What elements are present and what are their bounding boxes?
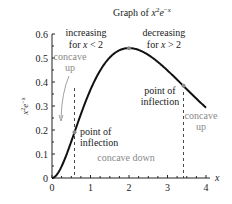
- annotations: increasing for x < 2 decreasing for x > …: [65, 27, 185, 148]
- y-tick-labels: 0.6 0.5 0.4 0.3 0.2 0.1 0: [36, 29, 49, 184]
- x-axis: [52, 175, 210, 178]
- decreasing-condition: for x > 2: [147, 39, 181, 50]
- concavity-annotations: concave up concave down concave up: [54, 51, 218, 163]
- svg-text:point of: point of: [80, 126, 112, 137]
- svg-text:concave: concave: [54, 51, 87, 62]
- svg-text:0.2: 0.2: [36, 125, 49, 136]
- svg-text:up: up: [196, 121, 206, 132]
- increasing-condition: for x < 2: [69, 39, 103, 50]
- svg-text:0: 0: [50, 182, 55, 193]
- svg-text:0.5: 0.5: [36, 53, 49, 64]
- svg-text:2: 2: [127, 182, 132, 193]
- chart-title: Graph of x2e−x: [113, 6, 172, 18]
- svg-text:3: 3: [165, 182, 170, 193]
- y-axis-label: x2e−x: [20, 97, 30, 115]
- svg-text:0.1: 0.1: [36, 149, 49, 160]
- svg-text:point of: point of: [144, 85, 176, 96]
- svg-text:4: 4: [204, 182, 209, 193]
- svg-text:inflection: inflection: [80, 137, 118, 148]
- chart-container: Graph of x2e−x 0.6: [0, 0, 232, 204]
- svg-text:1: 1: [88, 182, 93, 193]
- x-tick-labels: 0 1 2 3 4: [50, 182, 209, 193]
- svg-text:decreasing: decreasing: [143, 27, 186, 38]
- svg-text:inflection: inflection: [141, 96, 179, 107]
- svg-text:increasing: increasing: [65, 27, 106, 38]
- svg-text:concave: concave: [185, 110, 218, 121]
- svg-text:0: 0: [43, 173, 48, 184]
- svg-text:0.4: 0.4: [36, 77, 49, 88]
- svg-text:concave down: concave down: [97, 152, 154, 163]
- svg-text:0.3: 0.3: [36, 101, 49, 112]
- svg-text:0.6: 0.6: [36, 29, 49, 40]
- concave-up-arrow: [59, 76, 69, 121]
- svg-text:up: up: [65, 62, 75, 73]
- x-axis-label: x: [214, 172, 220, 183]
